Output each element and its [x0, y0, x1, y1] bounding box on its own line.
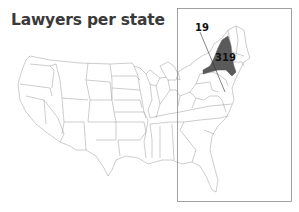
- us-map: [0, 0, 299, 212]
- new-york-value-label: 319: [215, 52, 236, 63]
- us-outline: [18, 26, 250, 192]
- callout-dc-label: 19: [195, 22, 209, 33]
